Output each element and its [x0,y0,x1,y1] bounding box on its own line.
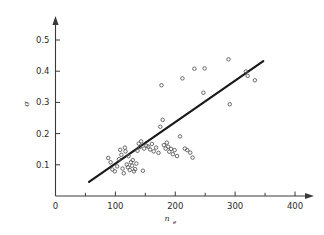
data-point [130,164,134,168]
y-tick-label: 0.3 [36,97,50,107]
data-point [141,169,145,173]
x-tick-label: 200 [167,201,183,211]
data-point [228,103,232,107]
data-point [113,170,117,174]
data-point [203,67,207,71]
data-point [175,154,179,158]
data-point [173,148,177,152]
data-point [246,74,250,78]
data-point [106,156,110,160]
y-tick-label: 0.5 [36,35,50,45]
y-axis-title: σ [22,101,31,107]
data-point [124,150,128,154]
data-point [165,141,169,145]
data-point [123,146,127,150]
data-point [160,83,164,87]
scatter-plot-figure: 0.10.20.30.40.5 0100200300400 σ n e [0,0,324,235]
x-tick-label: 0 [53,201,58,211]
data-point [152,150,156,154]
data-point-group [106,58,256,175]
plot-canvas: 0.10.20.30.40.5 0100200300400 σ n e [0,0,324,235]
x-tick-label: 100 [107,201,123,211]
data-point [154,146,158,150]
x-tick-labels: 0100200300400 [53,201,303,211]
data-point [171,152,175,156]
data-point [191,156,195,160]
y-tick-label: 0.2 [36,129,50,139]
data-point [139,140,143,144]
x-axis-group [56,193,315,199]
data-point [159,125,163,128]
data-point [202,91,206,95]
y-tick-label: 0.4 [36,66,50,76]
data-point [109,161,113,165]
data-point [161,118,165,122]
x-tick-label: 400 [287,201,303,211]
x-axis-arrow-icon [305,193,314,199]
data-point [169,147,173,151]
y-tick-labels: 0.10.20.30.40.5 [36,35,50,170]
data-point [120,153,124,157]
data-point [227,58,231,62]
y-tick-label: 0.1 [36,160,50,170]
data-point [150,142,154,146]
y-tick-marks [56,40,61,165]
data-point [135,162,139,166]
data-point [118,148,122,152]
data-point [148,148,152,152]
data-point [157,151,161,155]
data-point [128,168,132,172]
data-point [193,67,197,71]
data-point [121,167,125,171]
data-point [188,151,192,155]
x-axis-title: n e [164,214,177,225]
data-point [253,79,257,83]
y-axis-group [52,16,58,196]
data-point [181,77,185,81]
x-tick-label: 300 [227,201,243,211]
y-axis-arrow-icon [52,16,58,25]
x-axis-title-base: n [164,214,169,223]
regression-fit-line [89,61,263,182]
x-axis-title-subscript: e [173,219,177,225]
data-point [178,135,182,139]
data-point [122,171,126,175]
data-point [115,165,119,169]
